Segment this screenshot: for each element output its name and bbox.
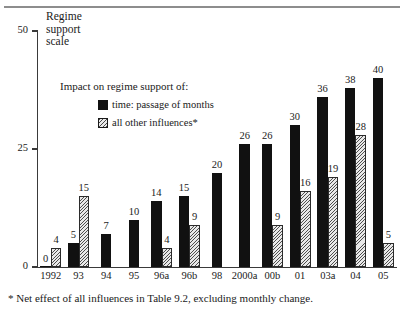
x-axis-label: 2000a (231, 270, 259, 281)
bar-time (317, 97, 328, 267)
bar-other-influences (328, 177, 339, 267)
bar-value-label: 15 (173, 182, 196, 193)
bar-time (179, 196, 190, 267)
bar-value-label: 9 (183, 211, 206, 222)
bar-value-label: 19 (322, 163, 345, 174)
bar-value-label: 40 (367, 64, 390, 75)
x-axis-label: 00b (259, 270, 287, 281)
bar-other-influences (300, 191, 311, 267)
bar-value-label: 38 (339, 74, 362, 85)
y-tick-label: 50 (2, 24, 28, 35)
bar-other-influences (189, 225, 200, 267)
bar-other-influences (79, 196, 90, 267)
bar-other-influences (51, 248, 62, 267)
bar-value-label: 9 (266, 211, 289, 222)
bar-other-influences (383, 243, 394, 267)
bar-value-label: 16 (294, 177, 317, 188)
bar-time (290, 125, 301, 267)
bar-plot-area: 045157101441592026269301636193828405 (37, 31, 397, 267)
x-axis-label: 04 (342, 270, 370, 281)
bar-time (129, 220, 140, 267)
bar-value-label: 26 (256, 130, 279, 141)
bar-value-label: 5 (377, 229, 400, 240)
bar-time (40, 266, 51, 267)
bar-time (239, 144, 250, 267)
x-axis-label: 94 (92, 270, 120, 281)
top-rule (4, 6, 400, 8)
bar-value-label: 30 (284, 111, 307, 122)
bar-value-label: 26 (233, 130, 256, 141)
x-axis-line (37, 267, 397, 268)
bar-time (212, 173, 223, 267)
bar-value-label: 20 (206, 159, 229, 170)
x-axis-label: 93 (65, 270, 93, 281)
bar-time (345, 88, 356, 267)
figure-footnote: * Net effect of all influences in Table … (8, 292, 313, 304)
x-axis-label-group: 199293949596a96b982000a00b0103a0405 (37, 270, 397, 286)
bar-time (68, 243, 79, 267)
x-axis-label: 98 (203, 270, 231, 281)
x-axis-label: 96b (175, 270, 203, 281)
bar-value-label: 10 (123, 206, 146, 217)
bar-time (262, 144, 273, 267)
x-axis-label: 01 (286, 270, 314, 281)
bar-other-influences (355, 135, 366, 267)
bar-value-label: 4 (156, 234, 179, 245)
bar-value-label: 7 (95, 220, 118, 231)
bar-value-label: 15 (73, 182, 96, 193)
bar-value-label: 28 (349, 121, 372, 132)
bar-time (101, 234, 112, 267)
x-axis-label: 96a (148, 270, 176, 281)
x-axis-label: 03a (314, 270, 342, 281)
y-tick-label: 0 (2, 260, 28, 271)
bar-other-influences (162, 248, 173, 267)
x-axis-label: 1992 (37, 270, 65, 281)
bar-value-label: 36 (311, 83, 334, 94)
chart-figure: Regime support scale 02550 Impact on reg… (0, 0, 403, 312)
bar-value-label: 14 (145, 187, 168, 198)
x-axis-label: 95 (120, 270, 148, 281)
y-tick-label: 25 (2, 142, 28, 153)
bar-other-influences (272, 225, 283, 267)
x-axis-label: 05 (369, 270, 397, 281)
